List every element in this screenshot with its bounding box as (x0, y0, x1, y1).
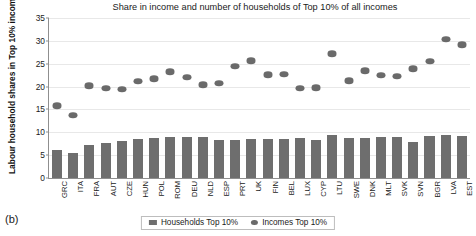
bar (68, 153, 78, 178)
bar (408, 142, 418, 178)
gridline (49, 87, 470, 88)
gridline (49, 41, 470, 42)
x-tick-label: ITA (76, 181, 85, 192)
x-tick-label: CZE (125, 181, 134, 196)
data-point-marker (376, 72, 385, 78)
x-tick-label: POL (157, 181, 166, 196)
bar (84, 145, 94, 178)
x-tick-label: FIN (271, 181, 280, 193)
x-tick-label: BGR (433, 181, 442, 197)
bar (246, 139, 256, 178)
data-point-marker (69, 112, 78, 118)
bar (149, 138, 159, 178)
x-tick-label: FRA (92, 181, 101, 196)
chart-title: Share in income and number of households… (40, 2, 470, 13)
x-tick-label: SWE (352, 181, 361, 198)
x-tick-label: ESP (222, 181, 231, 196)
x-tick-label: PRT (238, 181, 247, 196)
bar (198, 137, 208, 178)
y-tick-mark (46, 86, 49, 87)
y-tick-mark (46, 18, 49, 19)
y-tick-label: 20 (36, 82, 45, 92)
bar (117, 141, 127, 178)
bar (279, 139, 289, 178)
bar (441, 135, 451, 178)
x-tick-label: DEU (190, 181, 199, 197)
y-tick-label: 0 (40, 173, 45, 183)
y-tick-mark (46, 63, 49, 64)
y-tick-label: 10 (36, 127, 45, 137)
x-tick-label: SVN (416, 181, 425, 197)
y-tick-label: 5 (40, 150, 45, 160)
x-tick-label: NLD (206, 181, 215, 196)
legend-label: Households Top 10% (161, 218, 238, 227)
bar (101, 143, 111, 178)
bar (165, 137, 175, 178)
data-point-marker (328, 50, 337, 56)
gridline (49, 109, 470, 110)
bar (424, 136, 434, 179)
gridline (49, 132, 470, 133)
y-axis-title: Labour household shares in Top 10% incom… (7, 6, 18, 174)
plot-area: 05101520253035 GRCITAFRAAUTCZEHUNPOLROMD… (48, 18, 470, 179)
bar (344, 138, 354, 178)
data-point-marker (182, 74, 191, 80)
gridline (49, 155, 470, 156)
bar (52, 150, 62, 178)
bar (457, 136, 467, 179)
y-axis-title-wrap: Labour household shares in Top 10% incom… (0, 10, 25, 170)
data-point-marker (263, 71, 272, 77)
x-tick-label: AUT (109, 181, 118, 196)
bar (376, 137, 386, 178)
x-tick-label: ROM (173, 181, 182, 199)
data-point-marker (85, 82, 94, 88)
bar (230, 140, 240, 178)
legend-label: Incomes Top 10% (262, 218, 327, 227)
data-point-marker (134, 78, 143, 84)
data-point-marker (295, 85, 304, 91)
data-point-marker (53, 103, 62, 109)
y-tick-mark (46, 132, 49, 133)
data-point-marker (360, 67, 369, 73)
bar (295, 138, 305, 178)
gridline (49, 64, 470, 65)
y-tick-label: 35 (36, 13, 45, 23)
data-point-marker (279, 71, 288, 77)
y-tick-mark (46, 155, 49, 156)
legend-item: Incomes Top 10% (251, 218, 327, 227)
bar (392, 137, 402, 178)
bar (133, 139, 143, 178)
x-tick-label: CYP (319, 181, 328, 197)
data-point-marker (312, 84, 321, 90)
y-tick-label: 25 (36, 59, 45, 69)
data-point-marker (117, 86, 126, 92)
y-tick-mark (46, 109, 49, 110)
data-point-marker (344, 77, 353, 83)
x-tick-label: SVK (400, 181, 409, 196)
y-tick-label: 30 (36, 36, 45, 46)
data-point-marker (101, 85, 110, 91)
x-tick-label: HUN (141, 181, 150, 197)
bar (327, 135, 337, 178)
x-tick-label: LTU (335, 181, 344, 195)
x-tick-label: LUX (303, 181, 312, 196)
x-tick-label: LVA (449, 181, 458, 194)
x-tick-label: DNK (368, 181, 377, 197)
x-tick-label: BEL (287, 181, 296, 195)
figure-panel-b: Share in income and number of households… (0, 0, 476, 236)
panel-letter: (b) (5, 213, 18, 225)
x-tick-label: UK (254, 181, 263, 192)
bar (214, 140, 224, 178)
bar (360, 138, 370, 178)
data-point-marker (166, 68, 175, 74)
bar (263, 139, 273, 178)
gridline (49, 18, 470, 19)
legend-bar-swatch-icon (149, 220, 157, 225)
bar (311, 140, 321, 178)
bar (182, 137, 192, 178)
data-point-marker (231, 63, 240, 69)
y-tick-label: 15 (36, 104, 45, 114)
y-tick-mark (46, 40, 49, 41)
y-tick-mark (46, 178, 49, 179)
data-point-marker (457, 41, 466, 47)
